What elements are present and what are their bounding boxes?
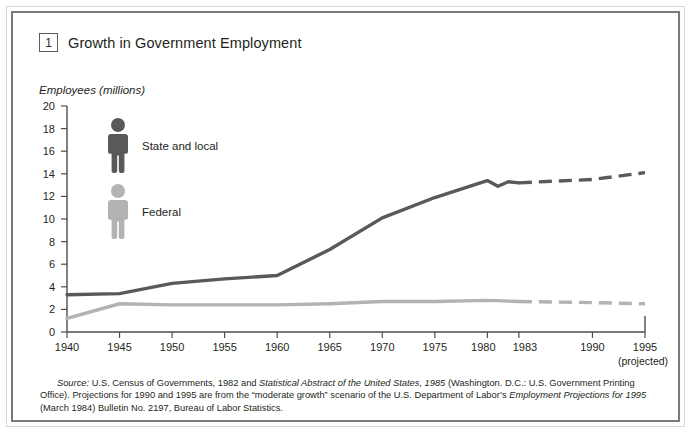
x-tick-label: 1965 [317,341,341,353]
person-icon [104,117,132,175]
x-tick-label: 1945 [107,341,131,353]
figure-container: 1 Growth in Government Employment Employ… [0,0,693,434]
y-tick-label: 4 [33,281,55,293]
y-tick-marks [61,106,67,332]
series-line-projected [519,173,645,183]
x-tick-label: 1950 [160,341,184,353]
source-line2-a: Projections for 1990 and 1995 are from t… [72,390,509,400]
projected-note: (projected) [618,355,668,367]
legend-label: State and local [142,140,218,152]
x-tick-label: 1940 [55,341,79,353]
source-line3: 1984) Bulletin No. 2197, Bureau of Labor… [72,403,283,413]
chart-legend: State and local Federal [104,115,218,243]
source-line1-a: U.S. Census of Governments, 1982 and [89,378,259,388]
series-line-solid [67,300,519,318]
source-line2-italic: Employment Projections for 1995 [509,390,646,400]
x-tick-label: 1970 [370,341,394,353]
person-icon [104,183,132,241]
y-tick-label: 2 [33,303,55,315]
source-line2-b: (March [40,403,69,413]
y-tick-label: 14 [33,168,55,180]
series-line-projected [519,301,645,303]
legend-item-federal: Federal [104,181,218,243]
x-tick-label: 1980 [471,341,495,353]
x-tick-label: 1995 [633,341,657,353]
source-label: Source: [57,378,89,388]
legend-label: Federal [142,206,181,218]
y-tick-label: 0 [33,326,55,338]
y-tick-label: 6 [33,258,55,270]
source-line1-italic: Statistical Abstract of the United State… [259,378,445,388]
x-tick-label: 1975 [423,341,447,353]
y-tick-label: 16 [33,145,55,157]
legend-item-state-and-local: State and local [104,115,218,177]
y-tick-label: 8 [33,236,55,248]
x-tick-label: 1955 [212,341,236,353]
y-tick-label: 12 [33,190,55,202]
source-note: Source: U.S. Census of Governments, 1982… [40,377,650,414]
x-tick-label: 1960 [265,341,289,353]
y-tick-label: 20 [33,100,55,112]
y-tick-label: 18 [33,123,55,135]
y-tick-label: 10 [33,213,55,225]
x-tick-marks [67,332,645,338]
x-tick-label: 1983 [513,341,537,353]
x-tick-label: 1990 [580,341,604,353]
